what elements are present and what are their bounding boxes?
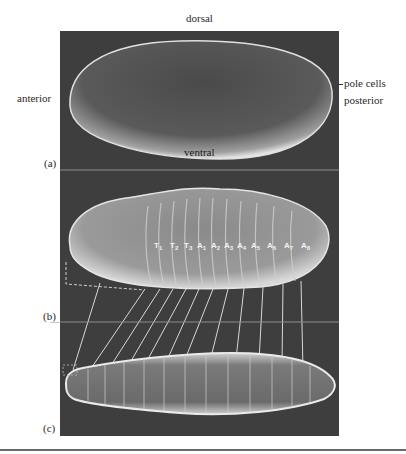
segment-label-a3: A3 bbox=[224, 241, 233, 253]
micrograph-panel: ventral T1 T2 T3 A1 A2 A3 A4 A5 A6 A7 A8 bbox=[60, 31, 339, 436]
panel-a-label: (a) bbox=[44, 157, 56, 169]
segment-label-t1: T1 bbox=[154, 241, 162, 253]
anterior-label: anterior bbox=[17, 92, 51, 104]
panel-b-label: (b) bbox=[43, 310, 56, 322]
bottom-rule bbox=[0, 449, 406, 451]
segment-label-a8: A8 bbox=[301, 241, 310, 253]
segment-label-a1: A1 bbox=[197, 241, 206, 253]
egg-specimen bbox=[70, 41, 332, 159]
panel-c-label: (c) bbox=[43, 422, 55, 434]
micrograph-illustration bbox=[60, 31, 339, 436]
posterior-label: posterior bbox=[344, 94, 383, 106]
segmented-embryo-specimen bbox=[66, 188, 329, 290]
segment-label-t3: T3 bbox=[184, 241, 192, 253]
panel-b-guide-line bbox=[50, 322, 60, 323]
segment-label-a7: A7 bbox=[284, 241, 293, 253]
dorsal-label: dorsal bbox=[186, 12, 213, 24]
pole-cells-label: pole cells bbox=[344, 77, 386, 89]
segment-label-a4: A4 bbox=[237, 241, 246, 253]
larva-specimen bbox=[63, 353, 335, 414]
segment-label-t2: T2 bbox=[170, 241, 178, 253]
ventral-label: ventral bbox=[184, 146, 215, 158]
segment-label-a2: A2 bbox=[211, 241, 220, 253]
segment-label-a5: A5 bbox=[251, 241, 260, 253]
segment-label-a6: A6 bbox=[267, 241, 276, 253]
